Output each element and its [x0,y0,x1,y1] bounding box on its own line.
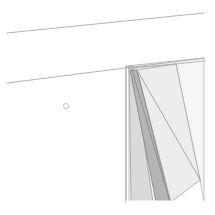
line-drawing-svg [0,0,215,215]
drawing-canvas [0,0,215,215]
circle-marker-icon [63,103,68,108]
